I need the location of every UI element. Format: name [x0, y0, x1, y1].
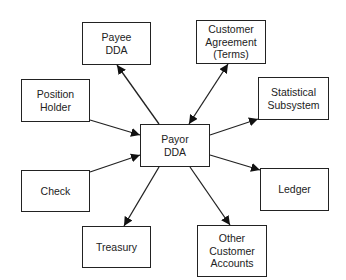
- edge-payor-agreement: [189, 64, 228, 124]
- node-label: Treasury: [96, 241, 137, 254]
- node-label: Customer Agreement (Terms): [205, 23, 256, 61]
- edge-position-to-payor: [90, 120, 140, 135]
- node-position-holder: Position Holder: [21, 79, 90, 122]
- node-payor-dda: Payor DDA: [140, 124, 210, 167]
- edge-payor-to-payee: [117, 65, 159, 124]
- node-label: Payor DDA: [161, 133, 188, 158]
- node-label: Check: [41, 185, 71, 198]
- edge-payor-to-other: [190, 167, 230, 225]
- node-label: Statistical Subsystem: [268, 86, 320, 111]
- edge-payor-to-ledger: [210, 155, 260, 170]
- node-label: Position Holder: [37, 88, 74, 113]
- node-statistical-subsystem: Statistical Subsystem: [258, 77, 329, 120]
- edge-check-to-payor: [90, 155, 140, 172]
- node-other-customer-accounts: Other Customer Accounts: [197, 225, 267, 277]
- node-customer-agreement: Customer Agreement (Terms): [196, 20, 266, 64]
- node-payee-dda: Payee DDA: [82, 22, 151, 65]
- node-treasury: Treasury: [82, 226, 151, 268]
- node-ledger: Ledger: [260, 168, 329, 211]
- edge-payor-to-statistical: [210, 119, 258, 135]
- node-label: Payee DDA: [102, 31, 132, 56]
- edge-payor-to-treasury: [124, 167, 159, 226]
- node-check: Check: [21, 170, 90, 212]
- node-label: Ledger: [278, 183, 311, 196]
- node-label: Other Customer Accounts: [209, 232, 255, 270]
